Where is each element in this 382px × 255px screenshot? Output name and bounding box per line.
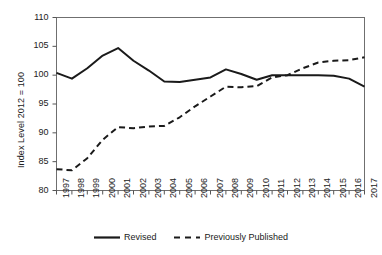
x-tick-label: 2006 <box>199 177 209 197</box>
x-tick-label: 1997 <box>61 177 71 197</box>
legend-label-revised: Revised <box>124 232 157 242</box>
legend-swatch-dashed <box>174 233 200 242</box>
axis-ticks <box>53 18 365 195</box>
y-tick-label: 80 <box>29 185 49 195</box>
y-tick-label: 90 <box>29 127 49 137</box>
y-tick-label: 95 <box>29 98 49 108</box>
x-tick-label: 2011 <box>276 178 286 197</box>
legend-swatch-solid <box>94 233 120 242</box>
x-tick-label: 2002 <box>138 177 148 197</box>
y-tick-label: 110 <box>29 12 49 22</box>
x-tick-label: 2015 <box>338 177 348 197</box>
data-series-group <box>57 48 365 170</box>
chart-legend: Revised Previously Published <box>0 232 382 242</box>
x-tick-label: 2017 <box>369 177 379 197</box>
axes-group <box>57 18 365 191</box>
plot-border <box>57 18 365 191</box>
chart-figure: Index Level 2012 = 100 80859095100105110… <box>0 0 382 255</box>
x-tick-label: 2001 <box>122 177 132 197</box>
x-tick-label: 2012 <box>292 177 302 197</box>
series-line-revised <box>57 48 365 87</box>
x-tick-label: 2009 <box>245 177 255 197</box>
chart-plot-area <box>0 0 382 255</box>
x-tick-label: 1999 <box>91 177 101 197</box>
y-tick-label: 85 <box>29 156 49 166</box>
x-tick-label: 2014 <box>322 177 332 197</box>
x-tick-label: 1998 <box>76 177 86 197</box>
legend-item-previously-published: Previously Published <box>174 232 288 242</box>
x-tick-label: 2004 <box>168 177 178 197</box>
x-tick-label: 2005 <box>184 177 194 197</box>
y-tick-label: 105 <box>29 40 49 50</box>
x-tick-label: 2008 <box>230 177 240 197</box>
legend-label-previously-published: Previously Published <box>204 232 288 242</box>
x-tick-label: 2000 <box>107 177 117 197</box>
y-tick-label: 100 <box>29 69 49 79</box>
x-tick-label: 2010 <box>261 177 271 197</box>
x-tick-label: 2003 <box>153 177 163 197</box>
x-tick-label: 2013 <box>307 177 317 197</box>
x-tick-label: 2016 <box>353 177 363 197</box>
legend-item-revised: Revised <box>94 232 157 242</box>
x-tick-label: 2007 <box>215 177 225 197</box>
